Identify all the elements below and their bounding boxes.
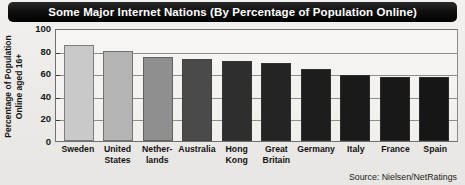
x-label-netherlands: Nether-lands <box>137 144 177 168</box>
x-label-great-britain: GreatBritain <box>257 144 297 168</box>
y-axis-tick-labels: 100806040200 <box>26 24 53 148</box>
bar-united-states[interactable] <box>103 51 133 141</box>
y-tick-60: 60 <box>40 69 51 79</box>
bar-series <box>56 30 457 141</box>
plot-area <box>55 29 458 142</box>
x-label-hong-kong: HongKong <box>217 144 257 168</box>
y-tick-20: 20 <box>40 114 51 124</box>
x-label-australia: Australia <box>177 144 217 168</box>
source-note: Source: Nielsen/NetRatings <box>349 172 457 182</box>
page-title: Some Major Internet Nations (By Percenta… <box>48 6 417 18</box>
bar-italy[interactable] <box>340 75 370 141</box>
bar-hong-kong[interactable] <box>222 61 252 141</box>
x-label-italy: Italy <box>336 144 376 168</box>
chart-title-banner: Some Major Internet Nations (By Percenta… <box>8 2 457 22</box>
bar-great-britain[interactable] <box>261 63 291 141</box>
y-tick-80: 80 <box>40 47 51 57</box>
y-tick-100: 100 <box>35 24 51 34</box>
y-axis-title-line2: Online aged 16+ <box>13 35 24 138</box>
bar-spain[interactable] <box>419 77 449 141</box>
bar-australia[interactable] <box>182 59 212 141</box>
x-label-france: France <box>376 144 416 168</box>
y-tick-40: 40 <box>40 92 51 102</box>
bar-netherlands[interactable] <box>143 57 173 141</box>
y-axis-title: Percentage of Population Online aged 16+ <box>0 28 26 144</box>
bar-sweden[interactable] <box>64 45 94 141</box>
bar-france[interactable] <box>380 77 410 141</box>
x-axis-tick-labels: SwedenUnitedStatesNether-landsAustraliaH… <box>55 144 458 168</box>
y-axis-title-line1: Percentage of Population <box>3 35 13 138</box>
x-label-sweden: Sweden <box>58 144 98 168</box>
chart-figure: Some Major Internet Nations (By Percenta… <box>0 0 465 185</box>
x-label-united-states: UnitedStates <box>98 144 138 168</box>
bar-germany[interactable] <box>301 69 331 141</box>
x-label-spain: Spain <box>415 144 455 168</box>
y-tick-0: 0 <box>46 137 51 147</box>
x-label-germany: Germany <box>296 144 336 168</box>
